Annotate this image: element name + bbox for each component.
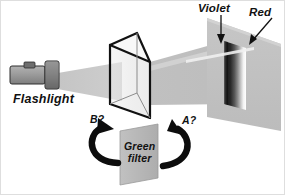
label-green-filter-line2: filter xyxy=(124,153,155,165)
flashlight xyxy=(10,61,59,89)
label-red: Red xyxy=(249,6,271,18)
triangular-prism xyxy=(110,33,150,118)
label-green-filter-line1: Green xyxy=(124,141,155,153)
label-position-b: B? xyxy=(90,113,104,125)
label-green-filter: Green filter xyxy=(124,141,155,164)
label-position-a: A? xyxy=(182,114,196,126)
label-violet: Violet xyxy=(198,2,230,14)
arrow-position-a xyxy=(163,119,188,166)
label-flashlight: Flashlight xyxy=(13,92,74,106)
figure-canvas: Flashlight Violet Red B? A? Green filter xyxy=(0,0,285,195)
